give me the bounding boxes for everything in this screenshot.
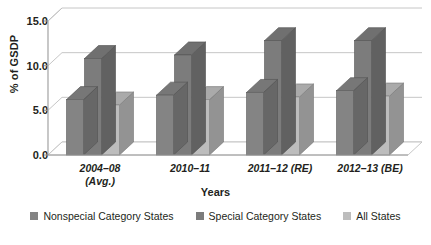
legend-item[interactable]: Nonspecial Category States bbox=[30, 210, 173, 222]
bar-chart: % of GSDP 0.05.010.015.0 2004–08 (Avg.)2… bbox=[0, 0, 431, 245]
x-axis-title: Years bbox=[0, 186, 431, 198]
legend-swatch-icon bbox=[30, 212, 38, 220]
x-axis-tick-label: 2011–12 (RE) bbox=[230, 162, 330, 175]
chart-legend: Nonspecial Category StatesSpecial Catego… bbox=[0, 210, 431, 222]
legend-item[interactable]: All States bbox=[343, 210, 400, 222]
legend-item[interactable]: Special Category States bbox=[196, 210, 322, 222]
legend-label: Special Category States bbox=[209, 210, 322, 222]
x-axis-tick-label: 2012–13 (BE) bbox=[320, 162, 420, 175]
legend-swatch-icon bbox=[196, 212, 204, 220]
legend-swatch-icon bbox=[343, 212, 351, 220]
x-axis-tick-label: 2004–08 (Avg.) bbox=[50, 162, 150, 188]
legend-label: Nonspecial Category States bbox=[43, 210, 173, 222]
x-axis-tick-label: 2010–11 bbox=[140, 162, 240, 175]
legend-label: All States bbox=[356, 210, 400, 222]
x-axis-tick-labels: 2004–08 (Avg.)2010–112011–12 (RE)2012–13… bbox=[0, 0, 431, 245]
